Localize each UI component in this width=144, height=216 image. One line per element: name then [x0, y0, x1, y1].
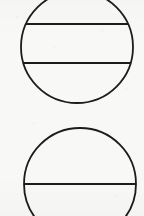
bottom-circle-outline: [24, 128, 136, 216]
top-circle-outline: [21, 0, 133, 103]
top-circle-group: [0, 0, 144, 103]
bottom-circle-group: [0, 128, 144, 216]
drawing-canvas: [0, 0, 144, 216]
figure-svg: [0, 0, 144, 216]
